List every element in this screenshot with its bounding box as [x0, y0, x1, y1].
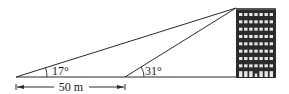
building-roof — [236, 8, 276, 10]
elevation-diagram: 17° 31° 50 m — [0, 0, 289, 94]
building-window — [265, 28, 268, 31]
building-window — [244, 42, 247, 45]
building-window — [239, 50, 242, 53]
building-window — [239, 13, 242, 16]
building-window — [239, 71, 242, 77]
building-window — [244, 35, 247, 38]
building-window — [259, 71, 262, 77]
arrowhead-right-icon — [117, 85, 124, 89]
building-window — [239, 35, 242, 38]
building-window — [254, 35, 257, 38]
building-window — [254, 28, 257, 31]
distance-label: 50 m — [59, 80, 84, 94]
angle-arc-31 — [141, 67, 144, 77]
building-window — [254, 64, 257, 67]
building-window — [244, 50, 247, 53]
building-window — [259, 20, 262, 23]
building-window — [239, 64, 242, 67]
building-window — [249, 13, 252, 16]
building-window — [259, 57, 262, 60]
building-window — [254, 57, 257, 60]
building-window — [239, 42, 242, 45]
building-window — [249, 20, 252, 23]
building-window — [270, 71, 273, 77]
building-window — [244, 13, 247, 16]
building-window — [259, 64, 262, 67]
building-window — [239, 57, 242, 60]
building-window — [249, 35, 252, 38]
building-window — [259, 35, 262, 38]
building-window — [244, 28, 247, 31]
building-window — [239, 28, 242, 31]
building-window — [270, 13, 273, 16]
building-window — [265, 13, 268, 16]
building-window — [259, 50, 262, 53]
building-window — [249, 71, 252, 77]
building-window — [239, 20, 242, 23]
building-window — [254, 20, 257, 23]
building-window — [254, 50, 257, 53]
building — [236, 8, 276, 78]
building-window — [265, 71, 268, 77]
building-window — [270, 35, 273, 38]
building-window — [259, 28, 262, 31]
building-door — [255, 74, 257, 78]
building-window — [244, 20, 247, 23]
building-window — [244, 71, 247, 77]
sight-line-17 — [16, 8, 236, 77]
building-window — [270, 57, 273, 60]
building-window — [270, 28, 273, 31]
arrowhead-left-icon — [17, 85, 24, 89]
building-window — [265, 42, 268, 45]
building-window — [265, 57, 268, 60]
angle-label-17: 17° — [52, 64, 69, 78]
building-window — [265, 20, 268, 23]
building-window — [270, 42, 273, 45]
building-window — [244, 57, 247, 60]
distance-dimension-arrow: 50 m — [16, 80, 125, 94]
sight-line-31 — [125, 8, 236, 77]
building-window — [249, 42, 252, 45]
building-window — [244, 64, 247, 67]
building-window — [249, 50, 252, 53]
building-window — [270, 64, 273, 67]
building-window — [249, 57, 252, 60]
building-window — [265, 64, 268, 67]
building-window — [254, 13, 257, 16]
building-window — [270, 50, 273, 53]
building-window — [249, 64, 252, 67]
building-window — [254, 42, 257, 45]
building-window — [259, 42, 262, 45]
building-window — [265, 50, 268, 53]
angle-label-31: 31° — [145, 64, 162, 78]
building-window — [270, 20, 273, 23]
angle-arc-17 — [46, 68, 47, 77]
building-window — [259, 13, 262, 16]
building-window — [265, 35, 268, 38]
building-window — [249, 28, 252, 31]
